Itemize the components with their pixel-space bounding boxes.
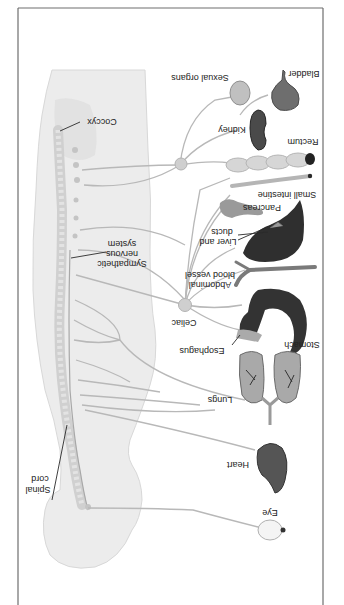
heart: [257, 443, 287, 493]
eye: [258, 520, 282, 540]
sympathetic-nervous-system-diagram: Coccyx Sympathetic nervous system Spinal…: [0, 0, 344, 605]
label-spinal-1: Spinal: [25, 485, 50, 495]
label-esophagus: Esophagus: [179, 346, 225, 356]
label-bladder: Bladder: [288, 69, 319, 79]
label-abdominal-2: blood vessel: [185, 270, 235, 280]
lungs: [239, 352, 300, 426]
label-heart: Heart: [227, 460, 250, 470]
label-kidney: Kidney: [218, 125, 246, 135]
label-liver-1: Liver and: [199, 237, 236, 247]
label-liver-2: ducts: [211, 227, 233, 237]
inferior-ganglion: [175, 158, 187, 170]
kidney: [250, 110, 266, 150]
celiac-ganglion: [179, 299, 192, 312]
label-pancreas: Pancreas: [242, 203, 281, 213]
label-celiac: Celiac: [171, 318, 197, 328]
label-abdominal-1: Abdominal: [189, 280, 232, 290]
label-lungs: Lungs: [207, 395, 232, 405]
label-stomach: Stomach: [284, 340, 320, 350]
sexual-organ: [230, 81, 250, 105]
label-small-intestine: Small intestine: [258, 190, 317, 200]
label-eye: Eye: [262, 508, 278, 518]
label-sympathetic-1: Sympathetic: [97, 259, 147, 269]
label-rectum: Rectum: [287, 137, 318, 147]
label-sexual-organs: Sexual organs: [171, 73, 229, 83]
label-spinal-2: cord: [31, 474, 49, 484]
label-sympathetic-3: system: [108, 239, 137, 249]
small-intestine: [232, 176, 310, 186]
label-sympathetic-2: nervous: [105, 249, 138, 259]
rectum: [226, 153, 315, 172]
label-coccyx: Coccyx: [87, 117, 117, 127]
